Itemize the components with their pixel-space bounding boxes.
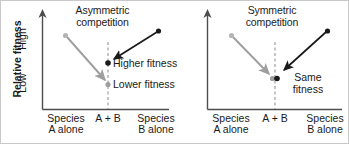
y-axis-line bbox=[203, 9, 211, 110]
species-b-alone-point bbox=[156, 28, 161, 33]
x-tick-species-b-line2: B alone bbox=[138, 123, 174, 135]
x-tick-species-b: Species B alone bbox=[294, 113, 349, 135]
callout-same-fitness-line1: Same bbox=[294, 71, 321, 83]
species-a-alone-point bbox=[229, 33, 234, 38]
panel-asymmetric: Asymmetric competition Relative fitness … bbox=[0, 0, 174, 144]
callout-higher-fitness: Higher fitness bbox=[113, 58, 177, 70]
species-a-alone-point bbox=[63, 33, 68, 38]
panel-symmetric: Symmetric competition bbox=[174, 0, 349, 144]
y-axis-line bbox=[38, 9, 46, 110]
callout-same-fitness: Same fitness bbox=[279, 72, 337, 95]
x-tick-species-a-line2: A alone bbox=[213, 123, 248, 135]
species-b-trajectory bbox=[284, 32, 326, 70]
species-b-mixed-point bbox=[105, 60, 111, 66]
species-a-trajectory bbox=[67, 37, 105, 80]
callout-lower-fitness: Lower fitness bbox=[113, 79, 175, 91]
species-b-alone-point bbox=[325, 28, 330, 33]
species-a-mixed-point bbox=[105, 82, 110, 87]
species-b-trajectory bbox=[114, 32, 157, 59]
x-tick-species-a-line2: A alone bbox=[48, 123, 83, 135]
x-tick-species-b-line2: B alone bbox=[307, 123, 343, 135]
competition-figure: Asymmetric competition Relative fitness … bbox=[0, 0, 349, 144]
species-a-trajectory bbox=[233, 37, 269, 74]
callout-same-fitness-line2: fitness bbox=[293, 83, 323, 95]
